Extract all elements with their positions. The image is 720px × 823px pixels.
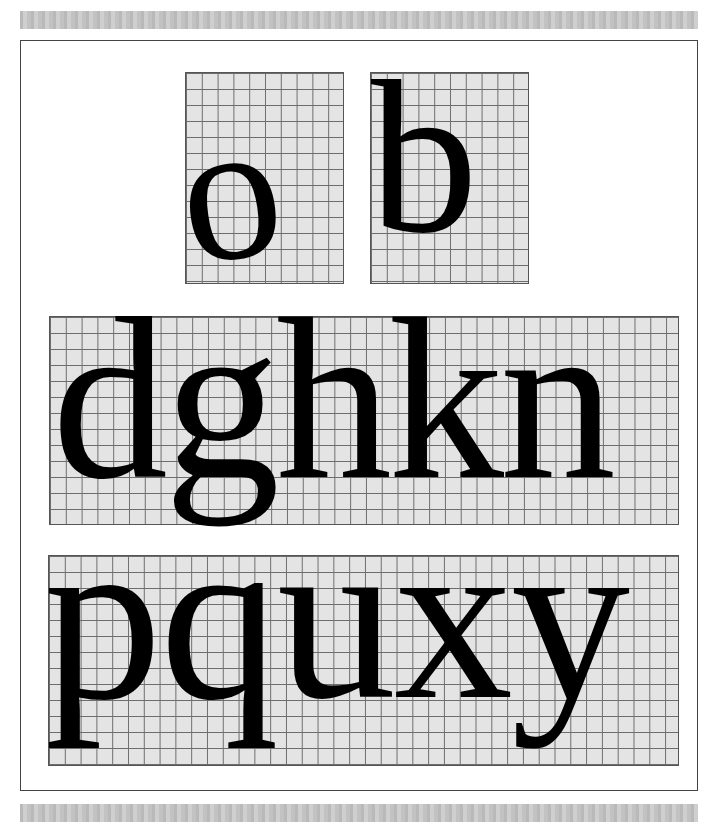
letter-b: b: [370, 72, 478, 267]
top-decorative-strip: [20, 11, 698, 29]
letter-o: o: [185, 85, 293, 284]
letters-dghkn: dghkn: [52, 283, 612, 515]
grid-panel-o: o: [185, 72, 344, 284]
letters-pquxy: pquxy: [48, 555, 628, 736]
bottom-decorative-strip: [20, 804, 698, 822]
grid-panel-pquxy: pquxy: [48, 555, 679, 766]
grid-panel-b: b: [370, 72, 529, 284]
grid-panel-dghkn: dghkn: [49, 316, 679, 525]
